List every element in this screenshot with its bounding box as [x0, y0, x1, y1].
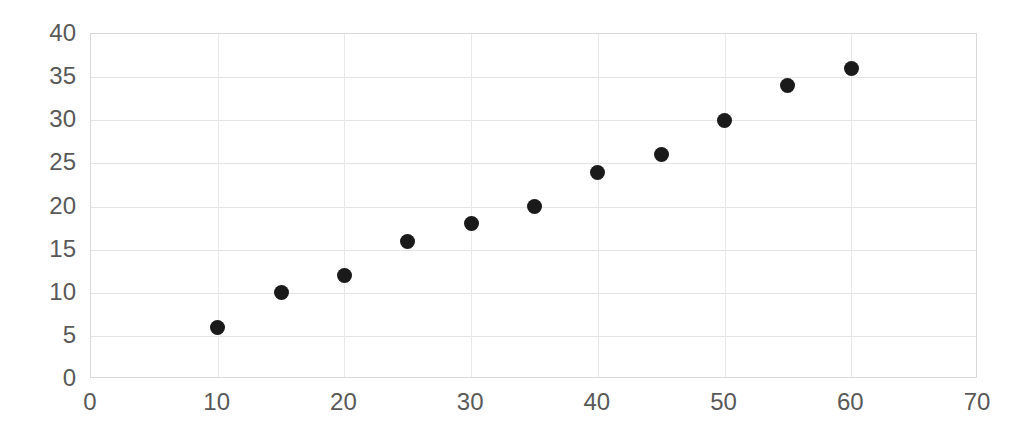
x-tick-label-50: 50: [684, 390, 764, 414]
gridline-x-40: [598, 34, 599, 377]
data-point: [717, 113, 732, 128]
data-point: [780, 78, 795, 93]
gridline-y-5: [91, 336, 976, 337]
data-point: [527, 199, 542, 214]
gridline-y-25: [91, 163, 976, 164]
gridline-y-35: [91, 77, 976, 78]
y-tick-label-35: 35: [4, 64, 76, 88]
gridline-x-60: [851, 34, 852, 377]
gridline-y-15: [91, 250, 976, 251]
y-tick-label-10: 10: [4, 280, 76, 304]
y-axis-tick-labels: 0510152025303540: [0, 33, 76, 378]
data-point: [654, 147, 669, 162]
plot-area: [90, 33, 977, 378]
x-tick-label-70: 70: [937, 390, 1017, 414]
x-tick-label-20: 20: [303, 390, 383, 414]
y-tick-label-30: 30: [4, 107, 76, 131]
x-axis-tick-labels: 010203040506070: [90, 390, 977, 424]
data-point: [400, 234, 415, 249]
data-point: [274, 285, 289, 300]
x-tick-label-60: 60: [810, 390, 890, 414]
x-tick-label-40: 40: [557, 390, 637, 414]
scatter-chart: 0510152025303540 010203040506070: [0, 0, 1017, 444]
x-tick-label-10: 10: [177, 390, 257, 414]
y-tick-label-25: 25: [4, 150, 76, 174]
gridline-x-50: [725, 34, 726, 377]
x-tick-label-0: 0: [50, 390, 130, 414]
data-point: [844, 61, 859, 76]
gridline-y-30: [91, 120, 976, 121]
y-tick-label-5: 5: [4, 323, 76, 347]
y-tick-label-20: 20: [4, 194, 76, 218]
gridline-x-30: [471, 34, 472, 377]
gridline-x-20: [344, 34, 345, 377]
y-tick-label-0: 0: [4, 366, 76, 390]
y-tick-label-40: 40: [4, 21, 76, 45]
y-tick-label-15: 15: [4, 237, 76, 261]
data-point: [210, 320, 225, 335]
x-tick-label-30: 30: [430, 390, 510, 414]
data-point: [464, 216, 479, 231]
gridline-y-10: [91, 293, 976, 294]
data-point: [337, 268, 352, 283]
data-point: [590, 165, 605, 180]
